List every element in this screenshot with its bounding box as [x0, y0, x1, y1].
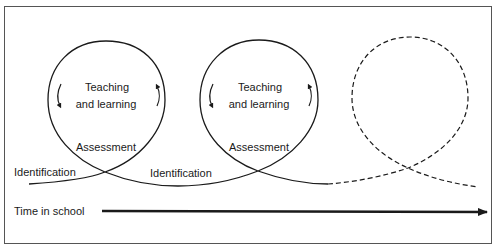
loop1-learning-label: and learning — [76, 98, 137, 110]
cycle-arrow-up-icon — [157, 86, 159, 106]
cycle-arrow-down-icon — [58, 84, 61, 106]
process-curve-dashed — [328, 37, 478, 187]
diagram-canvas: Teaching and learning Assessment Teachin… — [0, 0, 497, 252]
timeline-arrow — [102, 211, 487, 212]
identification-label-1: Identification — [14, 166, 76, 178]
loop1-assessment-label: Assessment — [76, 141, 136, 153]
timeline-label: Time in school — [14, 205, 85, 217]
loop2-learning-label: and learning — [229, 98, 290, 110]
process-curve-solid — [29, 40, 328, 186]
cycle-arrow-up-icon — [309, 86, 311, 106]
loop2-teaching-label: Teaching — [238, 81, 282, 93]
loop2-assessment-label: Assessment — [229, 141, 289, 153]
loop1-teaching-label: Teaching — [85, 81, 129, 93]
identification-label-2: Identification — [150, 167, 212, 179]
cycle-arrow-down-icon — [210, 84, 213, 106]
